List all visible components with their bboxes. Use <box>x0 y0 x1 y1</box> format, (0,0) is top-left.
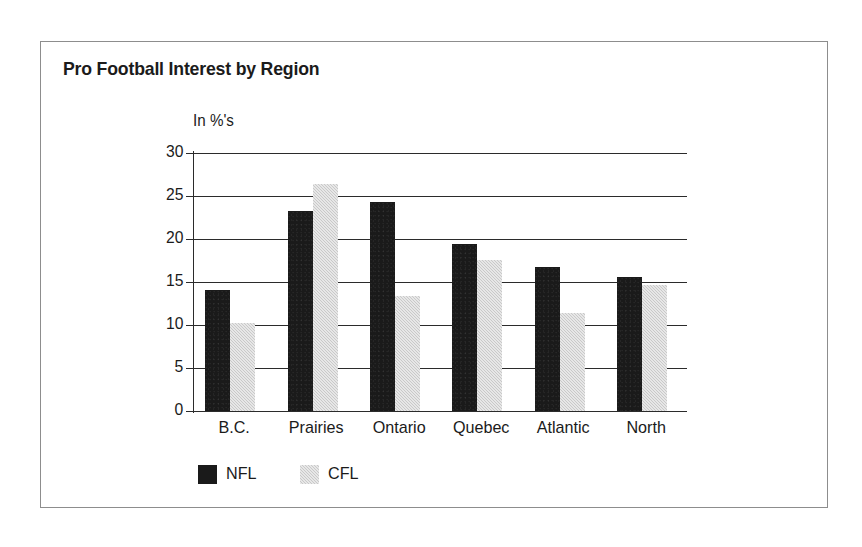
x-tick-label: Prairies <box>277 418 355 438</box>
gridline-0 <box>193 411 687 412</box>
x-tick-label: Quebec <box>442 418 520 438</box>
y-tick-25 <box>186 196 194 197</box>
bar-nfl-1 <box>288 211 313 411</box>
y-axis-unit-label: In %'s <box>193 112 234 130</box>
y-tick-20 <box>186 239 194 240</box>
bar-group <box>205 153 255 411</box>
bar-nfl-2 <box>370 202 395 411</box>
y-tick-label-20: 20 <box>166 228 183 247</box>
legend-item-nfl: NFL <box>198 464 258 484</box>
bar-cfl-0 <box>230 323 255 411</box>
bar-group <box>617 153 667 411</box>
bar-nfl-4 <box>535 267 560 411</box>
y-tick-label-5: 5 <box>174 357 183 376</box>
legend-item-cfl: CFL <box>300 464 360 484</box>
x-tick-label: North <box>607 418 685 438</box>
y-tick-label-10: 10 <box>166 314 183 333</box>
bar-cfl-1 <box>313 184 338 411</box>
y-tick-0 <box>186 411 194 412</box>
y-tick-label-0: 0 <box>174 400 183 419</box>
bar-nfl-0 <box>205 290 230 411</box>
bar-nfl-3 <box>452 244 477 411</box>
y-tick-label-30: 30 <box>166 142 183 161</box>
y-tick-5 <box>186 368 194 369</box>
legend-label: CFL <box>328 464 359 484</box>
legend-label: NFL <box>226 464 257 484</box>
x-axis-tick-labels: B.C.PrairiesOntarioQuebecAtlanticNorth <box>193 418 687 444</box>
y-tick-label-25: 25 <box>166 185 183 204</box>
y-tick-10 <box>186 325 194 326</box>
y-tick-15 <box>186 282 194 283</box>
x-tick-label: Atlantic <box>524 418 602 438</box>
bar-cfl-4 <box>560 313 585 411</box>
bar-cfl-2 <box>395 296 420 411</box>
figure-frame: Pro Football Interest by Region In %'s 0… <box>40 41 828 508</box>
x-tick-label: Ontario <box>360 418 438 438</box>
bar-group <box>452 153 502 411</box>
y-tick-30 <box>186 153 194 154</box>
bars-layer <box>193 153 687 411</box>
bar-group <box>288 153 338 411</box>
bar-nfl-5 <box>617 277 642 411</box>
legend-swatch-icon-nfl <box>198 465 217 484</box>
bar-cfl-5 <box>642 285 667 411</box>
y-tick-label-15: 15 <box>166 271 183 290</box>
bar-group <box>370 153 420 411</box>
y-axis-tick-labels: 051015202530 <box>141 153 183 411</box>
bar-cfl-3 <box>477 260 502 411</box>
page-title: Pro Football Interest by Region <box>63 58 319 80</box>
bar-group <box>535 153 585 411</box>
legend: NFLCFL <box>198 464 360 484</box>
x-tick-label: B.C. <box>195 418 273 438</box>
legend-swatch-icon-cfl <box>300 465 319 484</box>
plot-area <box>193 153 687 411</box>
